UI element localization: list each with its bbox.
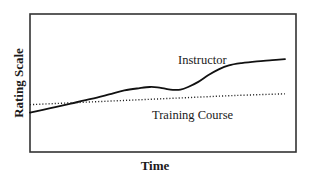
training-course-series-label: Training Course xyxy=(152,108,234,122)
y-axis-label: Rating Scale xyxy=(11,48,26,118)
plot-area-frame xyxy=(30,14,296,152)
chart-figure: Rating Scale Time Instructor Training Co… xyxy=(0,0,312,179)
chart-canvas: Rating Scale Time Instructor Training Co… xyxy=(0,0,312,179)
x-axis-label: Time xyxy=(141,158,170,173)
instructor-series-label: Instructor xyxy=(178,53,227,67)
